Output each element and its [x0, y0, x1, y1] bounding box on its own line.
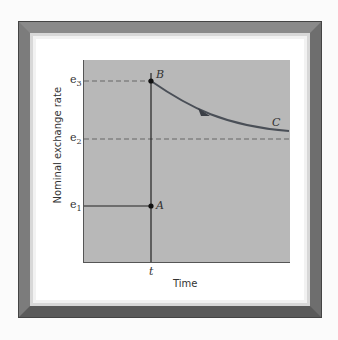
y-tick-e1: e1 — [70, 198, 82, 213]
x-axis-title: Time — [173, 278, 197, 289]
y-tick-e2: e2 — [70, 131, 82, 146]
point-b-marker — [148, 78, 153, 83]
point-c-label: C — [272, 116, 280, 129]
y-tick-e3: e3 — [70, 73, 82, 88]
adjustment-curve — [151, 81, 289, 131]
x-tick-t: t — [149, 265, 153, 278]
point-a-label: A — [156, 199, 164, 212]
point-a-marker — [148, 203, 153, 208]
point-b-label: B — [156, 68, 164, 81]
y-axis-title: Nominal exchange rate — [52, 94, 63, 204]
